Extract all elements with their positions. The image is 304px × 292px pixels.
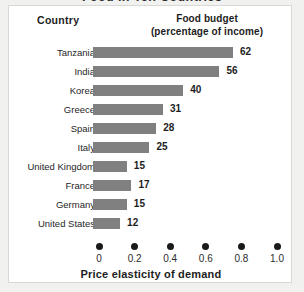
bar-row: Italy25 — [9, 139, 293, 158]
x-axis: Price elasticity of demand 00.20.40.60.8… — [9, 240, 293, 284]
bar-value-label: 56 — [226, 65, 237, 76]
bar-row-country-label: Korea — [0, 85, 95, 96]
bar-row-country-label: Tanzania — [0, 47, 95, 58]
bar — [93, 199, 127, 210]
bar — [93, 66, 219, 77]
bar — [93, 218, 120, 229]
bar — [93, 104, 163, 115]
food-budget-header-line1: Food budget — [127, 13, 287, 26]
elasticity-data-point — [202, 243, 209, 250]
x-axis-tick-label: 0.8 — [226, 253, 256, 264]
elasticity-data-point — [274, 243, 281, 250]
bar-row: Korea40 — [9, 82, 293, 101]
bar — [93, 161, 127, 172]
bar-row: Germany15 — [9, 196, 293, 215]
bar-row: India56 — [9, 63, 293, 82]
elasticity-data-point — [131, 243, 138, 250]
bar-row-country-label: Spain — [0, 123, 95, 134]
bar-row-country-label: Greece — [0, 104, 95, 115]
bar-value-label: 12 — [127, 217, 138, 228]
bar-row-country-label: France — [0, 180, 95, 191]
bar-rows: Tanzania62India56Korea40Greece31Spain28I… — [9, 44, 293, 234]
bar-row: Spain28 — [9, 120, 293, 139]
bar-row: France17 — [9, 177, 293, 196]
bar-row: Greece31 — [9, 101, 293, 120]
x-axis-tick-label: 0.2 — [120, 253, 150, 264]
bar-value-label: 15 — [134, 160, 145, 171]
elasticity-data-point — [167, 243, 174, 250]
bar-row: Tanzania62 — [9, 44, 293, 63]
elasticity-data-point — [96, 243, 103, 250]
x-axis-tick-label: 0.4 — [155, 253, 185, 264]
x-axis-tick-label: 0.6 — [191, 253, 221, 264]
x-axis-title: Price elasticity of demand — [9, 268, 293, 280]
bar-value-label: 31 — [170, 103, 181, 114]
bar — [93, 123, 156, 134]
bar-row-country-label: India — [0, 66, 95, 77]
x-axis-tick-label: 1.0 — [262, 253, 292, 264]
food-budget-header-line2: (percentage of income) — [127, 26, 287, 39]
chart-panel: Country Food budget (percentage of incom… — [8, 5, 292, 283]
bar-value-label: 17 — [138, 179, 149, 190]
bar-row-country-label: United States — [0, 218, 95, 229]
bar-value-label: 40 — [190, 84, 201, 95]
bar-row: United States12 — [9, 215, 293, 234]
food-budget-column-header: Food budget (percentage of income) — [127, 13, 287, 38]
bar-value-label: 15 — [134, 198, 145, 209]
country-column-header: Country — [37, 14, 79, 26]
bar — [93, 142, 149, 153]
x-axis-tick-label: 0 — [84, 253, 114, 264]
bar-row-country-label: Italy — [0, 142, 95, 153]
bar — [93, 85, 183, 96]
chart-header-row: Country Food budget (percentage of incom… — [9, 10, 293, 44]
bar — [93, 180, 131, 191]
bar-row-country-label: United Kingdom — [0, 161, 95, 172]
bar-value-label: 62 — [240, 46, 251, 57]
bar — [93, 47, 233, 58]
bar-row-country-label: Germany — [0, 199, 95, 210]
elasticity-data-point — [238, 243, 245, 250]
bar-value-label: 28 — [163, 122, 174, 133]
bar-value-label: 25 — [156, 141, 167, 152]
bar-row: United Kingdom15 — [9, 158, 293, 177]
